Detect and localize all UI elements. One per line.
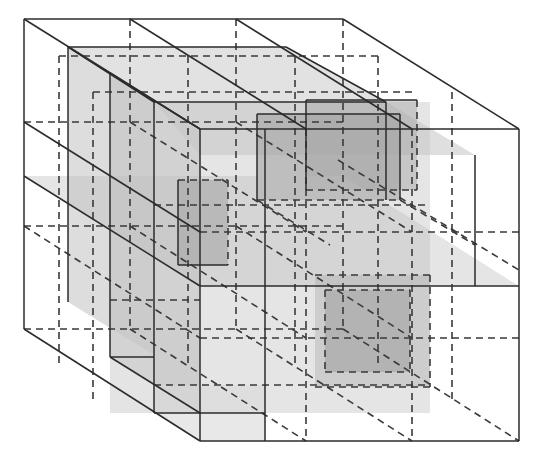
shaded-planes	[24, 47, 519, 441]
subdivided-cube-diagram	[0, 0, 535, 463]
diagram-canvas	[0, 0, 535, 463]
